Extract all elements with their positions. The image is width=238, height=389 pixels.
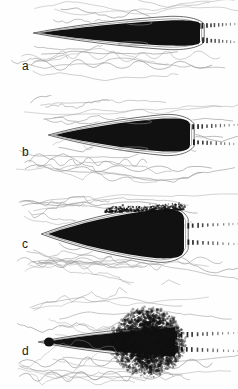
body-silhouette [48, 210, 184, 259]
panel-c: c [0, 190, 238, 285]
panel-b-graphic [0, 95, 238, 190]
panel-label-d: d [22, 345, 29, 357]
panel-label-a: a [22, 60, 29, 72]
body-silhouette [40, 20, 200, 45]
panel-d-graphic [0, 285, 238, 389]
body-silhouette [55, 118, 190, 151]
panel-label-b: b [22, 146, 29, 158]
panel-d: d [0, 285, 238, 389]
panel-c-graphic [0, 190, 238, 285]
panel-a-graphic [0, 0, 238, 95]
panel-label-c: c [22, 238, 28, 250]
figure-container: a b c d [0, 0, 238, 389]
panel-a: a [0, 0, 238, 95]
stipple-cloud [109, 305, 187, 377]
panel-b: b [0, 95, 238, 190]
